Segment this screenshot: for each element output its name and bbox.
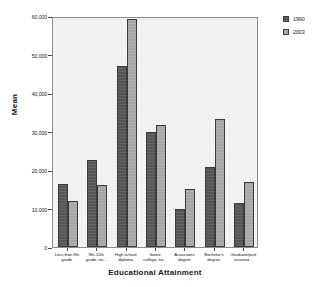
x-axis-title: Educational Attainment <box>52 268 258 277</box>
y-axis-tick-label: 50,000 <box>32 52 47 60</box>
plot-area <box>52 17 258 248</box>
bar-1-0 <box>68 201 78 247</box>
bar-1-6 <box>244 182 254 247</box>
bar-0-0 <box>58 184 68 247</box>
bar-1-4 <box>185 189 195 247</box>
x-axis-tick-mark <box>155 248 156 251</box>
x-axis-category-label: 9th-12thgrade, no... <box>81 252 110 263</box>
bar-0-1 <box>87 160 97 247</box>
x-axis-category-label: Associatesdegree <box>170 252 199 263</box>
x-axis-category-label: High schooldiploma <box>111 252 140 263</box>
x-axis-tick-mark <box>126 248 127 251</box>
x-axis-category-label-line: diploma <box>111 257 140 262</box>
y-axis-tick-label: 20,000 <box>32 167 47 175</box>
x-axis-tick-mark <box>67 248 68 251</box>
x-axis-tick-mark <box>96 248 97 251</box>
x-axis-category-label-line: essional... <box>229 257 258 262</box>
legend-item-1990[interactable]: 1990 <box>283 14 325 24</box>
y-axis-tick-label: 60,000 <box>32 13 47 21</box>
legend-swatch-icon <box>283 16 289 22</box>
bar-0-5 <box>205 167 215 247</box>
y-axis: 010,00020,00030,00040,00050,00060,000 <box>0 17 52 248</box>
x-axis-category-label-line: degree <box>170 257 199 262</box>
x-axis-category-label-line: degree <box>199 257 228 262</box>
bar-1-3 <box>156 125 166 247</box>
x-axis-category-label: Somecollege, no... <box>140 252 169 263</box>
bar-0-2 <box>117 66 127 247</box>
chart-legend: 19902003 <box>283 14 325 40</box>
bar-0-4 <box>175 209 185 247</box>
bar-chart: Mean 010,00020,00030,00040,00050,00060,0… <box>0 0 327 287</box>
y-axis-tick-label: 30,000 <box>32 129 47 137</box>
bars-layer <box>53 18 257 247</box>
legend-label: 2003 <box>293 29 305 35</box>
x-axis-tick-mark <box>214 248 215 251</box>
legend-item-2003[interactable]: 2003 <box>283 27 325 37</box>
bar-1-2 <box>127 19 137 247</box>
x-axis-tick-mark <box>184 248 185 251</box>
x-axis-category-label-line: college, no... <box>140 257 169 262</box>
legend-label: 1990 <box>293 16 305 22</box>
bar-1-5 <box>215 119 225 247</box>
y-axis-tick-label: 10,000 <box>32 206 47 214</box>
bar-0-3 <box>146 132 156 247</box>
x-axis-category-label: Graduate/professional... <box>229 252 258 263</box>
bar-0-6 <box>234 203 244 247</box>
x-axis-category-label: Bachelor'sdegree <box>199 252 228 263</box>
legend-swatch-icon <box>283 29 289 35</box>
y-axis-tick-label: 0 <box>44 244 47 252</box>
bar-1-1 <box>97 185 107 247</box>
x-axis-category-label-line: grade <box>52 257 81 262</box>
x-axis-category-label-line: grade, no... <box>81 257 110 262</box>
y-axis-tick-label: 40,000 <box>32 90 47 98</box>
x-axis-tick-mark <box>243 248 244 251</box>
x-axis-category-label: Less than 9thgrade <box>52 252 81 263</box>
